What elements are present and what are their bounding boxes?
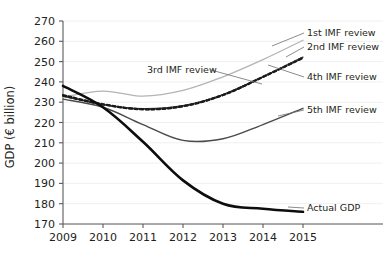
y-tick-label-240: 240 [34,76,55,89]
y-tick-marks [59,21,63,224]
leader-1st-review [272,33,304,46]
y-tick-label-180: 180 [34,198,55,211]
y-tick-label-230: 230 [34,96,55,109]
leader-2nd-review [286,47,304,57]
x-tick-label-2015: 2015 [289,231,317,244]
y-axis-title: GDP (€ billion) [3,86,17,169]
y-tick-label-190: 190 [34,177,55,190]
x-tick-label-2014: 2014 [249,231,277,244]
chart-canvas: 270260250240230220210200190180170 200920… [0,0,391,265]
axes-group [59,21,383,228]
y-tick-label-170: 170 [34,218,55,231]
y-tick-label-220: 220 [34,117,55,130]
x-axis-tick-labels: 2009201020112012201320142015 [49,231,317,244]
y-tick-label-200: 200 [34,157,55,170]
annotation-2nd-imf-review: 2nd IMF review [307,41,379,52]
annotation-3rd-imf-review: 3rd IMF review [147,64,217,75]
series-annotations-group: 1st IMF review2nd IMF review3rd IMF revi… [147,27,379,213]
annotation-actual-gdp: Actual GDP [307,202,360,213]
y-tick-label-270: 270 [34,15,55,28]
x-tick-label-2011: 2011 [129,231,157,244]
annotation-4th-imf-review: 4th IMF review [307,71,377,82]
x-tick-label-2010: 2010 [89,231,117,244]
gdp-projection-chart: 270260250240230220210200190180170 200920… [0,0,391,265]
series-line-actual-gdp [63,86,303,212]
annotation-leader-lines [211,33,304,208]
x-tick-label-2013: 2013 [209,231,237,244]
y-tick-label-260: 260 [34,35,55,48]
annotation-1st-imf-review: 1st IMF review [307,27,376,38]
y-tick-label-250: 250 [34,56,55,69]
x-tick-label-2012: 2012 [169,231,197,244]
y-tick-label-210: 210 [34,137,55,150]
x-tick-marks [63,224,303,228]
x-tick-label-2009: 2009 [49,231,77,244]
leader-5th-review [278,110,304,116]
y-axis-tick-labels: 270260250240230220210200190180170 [34,15,55,231]
leader-actual-gdp [288,207,304,208]
annotation-5th-imf-review: 5th IMF review [307,104,377,115]
